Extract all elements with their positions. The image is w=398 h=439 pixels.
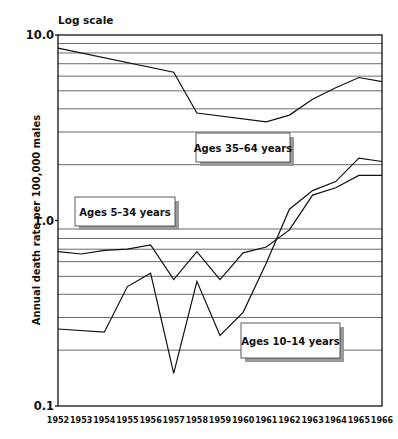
y-tick-label: 1.0	[34, 214, 54, 228]
series-labels: Ages 35–64 yearsAges 5–34 yearsAges 10–1…	[75, 133, 344, 362]
chart: Log scale Annual death rate per 100,000 …	[0, 0, 398, 439]
y-tick-label: 0.1	[34, 399, 54, 413]
x-tick-label: 1965	[348, 416, 371, 425]
x-tick-label: 1953	[70, 416, 92, 425]
x-tick-label: 1952	[47, 416, 69, 425]
x-tick-label: 1959	[209, 416, 232, 425]
series-label-ages-5-34: Ages 5–34 years	[75, 197, 179, 230]
x-tick-label: 1960	[232, 416, 255, 425]
series-line-ages-35-64	[58, 48, 382, 122]
x-tick-label: 1964	[325, 416, 348, 425]
x-tick-labels: 1952195319541955195619571958195919601961…	[47, 416, 394, 425]
x-tick-label: 1954	[93, 416, 116, 425]
x-tick-label: 1958	[186, 416, 209, 425]
x-tick-label: 1962	[278, 416, 300, 425]
label-text: Ages 10–14 years	[241, 336, 339, 347]
x-tick-label: 1956	[139, 416, 162, 425]
x-tick-label: 1961	[255, 416, 278, 425]
label-text: Ages 5–34 years	[79, 207, 170, 218]
series-label-ages-35-64: Ages 35–64 years	[194, 133, 294, 166]
series-label-ages-10-14: Ages 10–14 years	[241, 323, 344, 362]
x-tick-label: 1966	[371, 416, 394, 425]
x-tick-label: 1955	[116, 416, 139, 425]
x-tick-label: 1963	[301, 416, 323, 425]
y-tick-label: 10.0	[26, 28, 54, 42]
chart-title: Log scale	[58, 14, 113, 26]
x-tick-label: 1957	[163, 416, 185, 425]
label-text: Ages 35–64 years	[194, 143, 292, 154]
